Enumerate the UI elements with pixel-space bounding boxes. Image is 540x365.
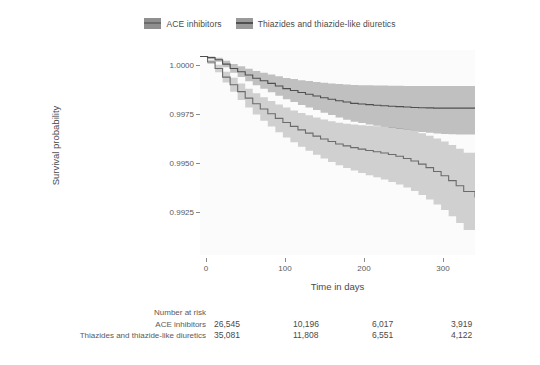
legend-item-ace-inhibitors: ACE inhibitors xyxy=(144,18,221,29)
y-tick-1: 0.9975 xyxy=(148,110,194,119)
y-tick-label-2: 0.9950 xyxy=(170,159,194,168)
risk-table-row-ace: ACE inhibitors 26,545 10,196 6,017 3,919 xyxy=(0,319,540,330)
legend-label-ace-inhibitors: ACE inhibitors xyxy=(166,19,221,29)
x-tick-mark-1 xyxy=(285,258,286,262)
x-tick-mark-2 xyxy=(364,258,365,262)
risk-row-label-ace: ACE inhibitors xyxy=(0,320,214,329)
x-tick-label-1: 100 xyxy=(278,264,291,273)
x-tick-3: 300 xyxy=(428,264,458,273)
y-tick-mark-0 xyxy=(196,65,200,66)
legend-item-thiazides: Thiazides and thiazide-like diuretics xyxy=(236,18,396,29)
risk-cell-ace-3: 3,919 xyxy=(451,319,530,329)
y-axis-title: Survival probability xyxy=(16,0,96,290)
legend-swatch-thiazides xyxy=(236,18,253,29)
number-at-risk-table: Number at risk ACE inhibitors 26,545 10,… xyxy=(0,308,540,341)
y-tick-2: 0.9950 xyxy=(148,159,194,168)
risk-cell-ace-2: 6,017 xyxy=(372,319,451,329)
y-tick-3: 0.9925 xyxy=(148,208,194,217)
x-axis-title: Time in days xyxy=(200,281,475,292)
risk-cell-thiazides-0: 35,081 xyxy=(214,330,293,340)
y-tick-mark-3 xyxy=(196,212,200,213)
risk-cell-ace-1: 10,196 xyxy=(293,319,372,329)
risk-table-title: Number at risk xyxy=(0,308,214,317)
y-tick-label-0: 1.0000 xyxy=(170,61,194,70)
x-tick-1: 100 xyxy=(270,264,300,273)
y-tick-mark-2 xyxy=(196,163,200,164)
x-tick-label-3: 300 xyxy=(436,264,449,273)
plot-panel xyxy=(200,50,475,255)
risk-cell-ace-0: 26,545 xyxy=(214,319,293,329)
survival-curve-figure: ACE inhibitors Thiazides and thiazide-li… xyxy=(0,0,540,365)
risk-row-label-thiazides: Thiazides and thiazide-like diuretics xyxy=(0,331,214,340)
y-tick-mark-1 xyxy=(196,114,200,115)
x-tick-label-0: 0 xyxy=(204,264,208,273)
y-axis-title-text: Survival probability xyxy=(50,105,61,185)
y-tick-label-3: 0.9925 xyxy=(170,208,194,217)
risk-cell-thiazides-1: 11,808 xyxy=(293,330,372,340)
confidence-band-thiazides xyxy=(200,57,475,238)
risk-table-row-thiazides: Thiazides and thiazide-like diuretics 35… xyxy=(0,330,540,341)
risk-table-title-row: Number at risk xyxy=(0,308,540,319)
legend-label-thiazides: Thiazides and thiazide-like diuretics xyxy=(258,19,396,29)
x-tick-mark-0 xyxy=(206,258,207,262)
x-tick-0: 0 xyxy=(191,264,221,273)
survival-curves-svg xyxy=(200,50,475,255)
legend-swatch-ace-inhibitors xyxy=(144,18,161,29)
y-tick-0: 1.0000 xyxy=(148,61,194,70)
risk-cell-thiazides-2: 6,551 xyxy=(372,330,451,340)
x-tick-mark-3 xyxy=(443,258,444,262)
risk-cell-thiazides-3: 4,122 xyxy=(451,330,530,340)
x-tick-2: 200 xyxy=(349,264,379,273)
x-tick-label-2: 200 xyxy=(357,264,370,273)
y-tick-label-1: 0.9975 xyxy=(170,110,194,119)
